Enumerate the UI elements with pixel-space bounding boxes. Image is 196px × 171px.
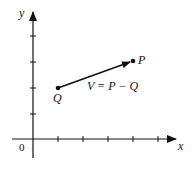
- vector-v: Q P V = P − Q: [53, 53, 146, 105]
- point-p-dot: [131, 59, 136, 64]
- origin-label: 0: [19, 141, 25, 153]
- y-axis-label: y: [18, 6, 25, 20]
- x-axis: x: [12, 136, 184, 153]
- vector-diagram: x y 0 Q P V = P − Q: [0, 0, 196, 171]
- point-q-label: Q: [53, 91, 62, 105]
- y-axis: y: [18, 6, 36, 158]
- point-p-label: P: [137, 53, 146, 67]
- point-q-dot: [56, 86, 61, 91]
- x-axis-label: x: [177, 139, 184, 153]
- vector-label: V = P − Q: [87, 79, 138, 93]
